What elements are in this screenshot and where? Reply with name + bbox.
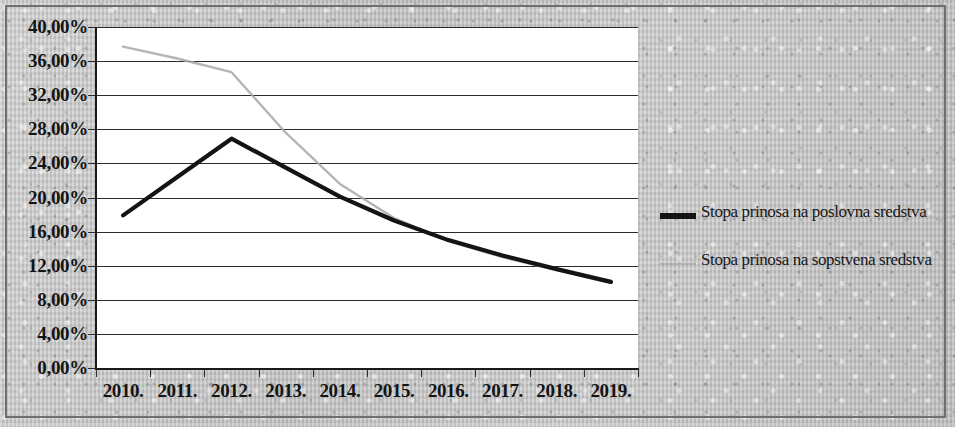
legend-item-poslovna: Stopa prinosa na poslovna sredstva xyxy=(655,196,951,244)
legend-swatch-line-icon-series-2 xyxy=(660,263,696,265)
chart-page: 0,00%4,00%8,00%12,00%16,00%20,00%24,00%2… xyxy=(0,0,955,427)
chart-legend: Stopa prinosa na poslovna sredstva Stopa… xyxy=(655,196,951,292)
legend-label-series-2: Stopa prinosa na sopstvena sredstva xyxy=(701,250,932,270)
legend-item-sopstvena: Stopa prinosa na sopstvena sredstva xyxy=(655,244,951,292)
legend-label-series-1: Stopa prinosa na poslovna sredstva xyxy=(701,202,926,222)
legend-swatch-line-icon-series-1 xyxy=(660,213,696,219)
series-line-1 xyxy=(123,139,611,282)
